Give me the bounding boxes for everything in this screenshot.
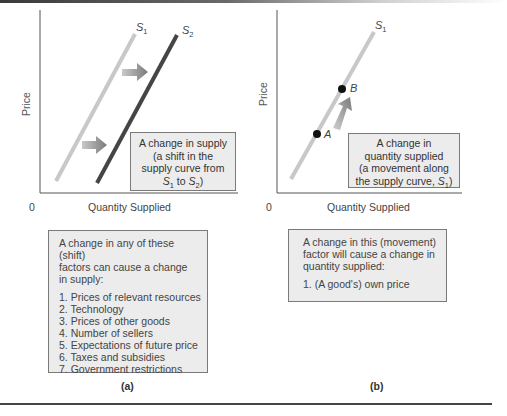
callout-line: quantity supplied: [349, 150, 459, 163]
point-b-label: B: [350, 82, 357, 94]
callout-line: (a movement along: [349, 162, 459, 175]
panel-b-movement-factor-box: A change in this (movement) factor will …: [288, 229, 447, 302]
panel-b-caption: (b): [370, 380, 383, 392]
panel-a-y-axis-label: Price: [20, 92, 32, 116]
callout-line: A change in: [349, 137, 459, 150]
callout-line: (a shift in the: [131, 150, 235, 163]
panel-a-s1-curve: [56, 34, 135, 181]
callout-line: S1 to S2): [131, 175, 235, 193]
list-item: 3. Prices of other goods: [59, 315, 199, 327]
callout-line: the supply curve, S1): [349, 175, 459, 193]
list-item: 1. (A good's) own price: [303, 278, 438, 290]
list-item: 1. Prices of relevant resources: [59, 291, 199, 303]
panel-a-shift-arrow-lower-icon: [82, 136, 107, 154]
factors-intro: A change in this (movement) factor will …: [303, 236, 438, 272]
panel-a-caption: (a): [121, 380, 134, 392]
list-item: 2. Technology: [59, 303, 199, 315]
panel-b-callout: A change in quantity supplied (a movemen…: [348, 133, 460, 188]
list-item: 5. Expectations of future price: [59, 339, 199, 351]
list-item: 6. Taxes and subsidies: [59, 351, 199, 363]
panel-b-s1-label: S1: [375, 19, 387, 34]
list-item: 4. Number of sellers: [59, 327, 199, 339]
panel-a-callout: A change in supply (a shift in the suppl…: [130, 132, 236, 191]
callout-line: supply curve from: [131, 162, 235, 175]
movement-factors-list: 1. (A good's) own price: [303, 278, 438, 290]
panel-a-origin-label: 0: [29, 201, 35, 213]
factors-intro: A change in any of these (shift) factors…: [59, 237, 199, 285]
panel-a-s1-label: S1: [136, 21, 148, 36]
panel-b-origin-label: 0: [266, 201, 272, 213]
panel-b-y-axis-label: Price: [257, 82, 269, 106]
panel-a-shift-arrow-upper-icon: [122, 63, 148, 81]
point-a-marker: [313, 130, 321, 138]
list-item: 7. Government restrictions: [59, 363, 199, 375]
callout-line: A change in supply: [131, 137, 235, 150]
panel-a-shift-factors-box: A change in any of these (shift) factors…: [48, 230, 208, 373]
point-a-label: A: [324, 128, 331, 140]
bottom-divider: [0, 403, 492, 405]
panel-a-x-axis-label: Quantity Supplied: [88, 201, 171, 213]
panel-b-x-axis-label: Quantity Supplied: [327, 201, 410, 213]
point-b-marker: [338, 85, 346, 93]
shift-factors-list: 1. Prices of relevant resources 2. Techn…: [59, 291, 199, 375]
panel-a-s2-label: S2: [182, 24, 194, 39]
